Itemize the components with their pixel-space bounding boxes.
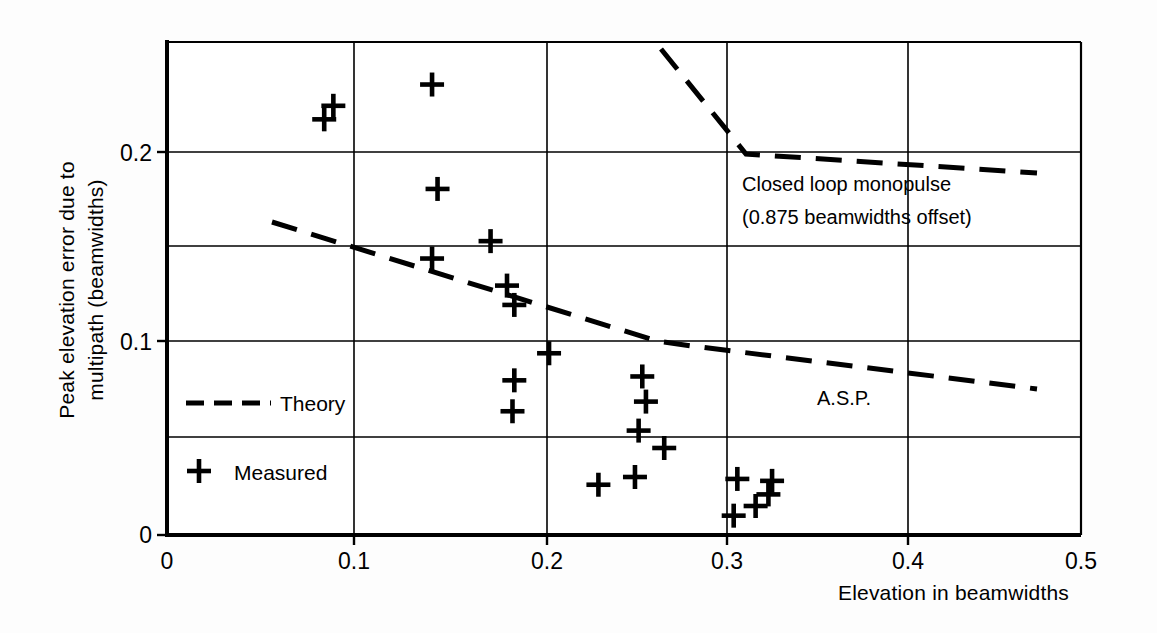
x-axis-title: Elevation in beamwidths: [838, 581, 1069, 604]
legend-theory-label: Theory: [280, 392, 346, 415]
x-tick-labels: 0 0.1 0.2 0.3 0.4 0.5: [161, 548, 1097, 574]
x-tick-label-0.5: 0.5: [1065, 548, 1097, 574]
x-tick-label-0.1: 0.1: [338, 548, 370, 574]
x-tick-label-0: 0: [161, 548, 174, 574]
legend-measured-label: Measured: [234, 461, 327, 484]
y-tick-label-0.2: 0.2: [120, 140, 152, 166]
annotation-asp-label: A.S.P.: [817, 387, 871, 409]
y-tick-label-0.1: 0.1: [120, 329, 152, 355]
chart-figure: 0 0.1 0.2 0.3 0.4 0.5 0.2 0.1 0 Elevatio…: [0, 0, 1157, 633]
annotation-closed-loop-line1: Closed loop monopulse: [742, 173, 951, 195]
annotation-closed-loop-line2: (0.875 beamwidths offset): [742, 206, 972, 228]
y-tick-labels: 0.2 0.1 0: [120, 140, 152, 548]
y-axis-title-line2: multipath (beamwidths): [84, 179, 107, 401]
x-tick-label-0.2: 0.2: [531, 548, 563, 574]
x-tick-label-0.3: 0.3: [711, 548, 743, 574]
x-tick-label-0.4: 0.4: [892, 548, 924, 574]
y-tick-label-0: 0: [139, 522, 152, 548]
y-axis-title-line1: Peak elevation error due to: [55, 161, 78, 419]
scatter-chart: 0 0.1 0.2 0.3 0.4 0.5 0.2 0.1 0 Elevatio…: [0, 0, 1157, 633]
